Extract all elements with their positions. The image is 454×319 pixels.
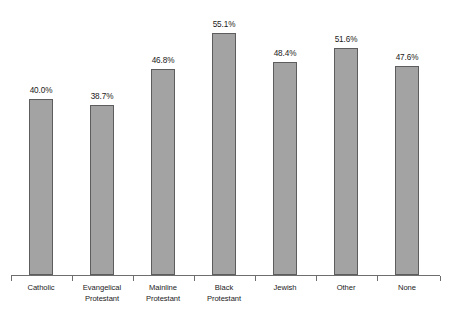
category-label: MainlineProtestant	[146, 283, 180, 304]
x-axis-tick	[194, 276, 195, 281]
category-label-line: Mainline	[146, 283, 180, 294]
category-label-line: Protestant	[146, 294, 180, 305]
bar-value-label: 38.7%	[91, 92, 114, 101]
bar-value-label: 47.6%	[396, 53, 419, 62]
bar-value-label: 40.0%	[30, 86, 53, 95]
category-label: BlackProtestant	[207, 283, 241, 304]
category-label-line: Evangelical	[83, 283, 121, 294]
x-axis-tick	[255, 276, 256, 281]
bar-value-label: 46.8%	[152, 56, 175, 65]
category-label-line: Protestant	[207, 294, 241, 305]
x-axis-tick	[377, 276, 378, 281]
plot-area: 40.0%Catholic38.7%EvangelicalProtestant4…	[0, 0, 454, 319]
bar-value-label: 51.6%	[335, 35, 358, 44]
bar[interactable]	[151, 69, 175, 275]
category-label-line: Black	[207, 283, 241, 294]
x-axis-tick	[316, 276, 317, 281]
category-label-line: Protestant	[83, 294, 121, 305]
bar[interactable]	[273, 62, 297, 275]
category-label: Jewish	[274, 283, 297, 294]
category-label-line: Catholic	[27, 283, 54, 294]
category-label-line: Other	[337, 283, 356, 294]
bar[interactable]	[334, 48, 358, 275]
x-axis-line	[11, 275, 440, 276]
bar[interactable]	[395, 66, 419, 275]
x-axis-tick	[440, 276, 441, 281]
bar[interactable]	[90, 105, 114, 275]
bar[interactable]	[29, 99, 53, 275]
category-label-line: Jewish	[274, 283, 297, 294]
category-label: None	[398, 283, 416, 294]
bar-value-label: 48.4%	[274, 49, 297, 58]
bar[interactable]	[212, 33, 236, 275]
bar-chart: 40.0%Catholic38.7%EvangelicalProtestant4…	[0, 0, 454, 319]
category-label-line: None	[398, 283, 416, 294]
category-label: Other	[337, 283, 356, 294]
category-label: Catholic	[27, 283, 54, 294]
bar-value-label: 55.1%	[213, 20, 236, 29]
x-axis-tick	[72, 276, 73, 281]
x-axis-tick	[133, 276, 134, 281]
category-label: EvangelicalProtestant	[83, 283, 121, 304]
x-axis-tick	[11, 276, 12, 281]
